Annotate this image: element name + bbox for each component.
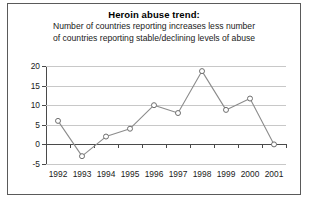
- x-axis-tick-label: 1999: [213, 170, 239, 179]
- x-axis-tick-label: 1995: [117, 170, 143, 179]
- x-axis-tick-label: 1994: [93, 170, 119, 179]
- data-point-marker: [104, 134, 109, 139]
- y-axis-tick-label-wrap: 10: [14, 101, 40, 109]
- x-axis-tick-label: 2000: [237, 170, 263, 179]
- y-axis-tick-label: 20: [18, 62, 40, 70]
- plot-area: [46, 66, 286, 164]
- y-axis-tick-label: 0: [18, 140, 40, 148]
- y-axis-tick-label: 15: [18, 82, 40, 90]
- gridline: [46, 164, 286, 165]
- data-point-marker: [56, 118, 61, 123]
- x-axis-tick-label: 1996: [141, 170, 167, 179]
- series-polyline: [58, 71, 274, 156]
- y-axis-tick-label-wrap: 15: [14, 82, 40, 90]
- y-axis-tick-label-wrap: 20: [14, 62, 40, 70]
- chart-subtitle-line-2: of countries reporting stable/declining …: [8, 33, 300, 45]
- data-point-marker: [272, 142, 277, 147]
- x-axis-tick-label: 1997: [165, 170, 191, 179]
- series-line-heroin-trend: [46, 66, 286, 164]
- chart-subtitle-line-1: Number of countries reporting increases …: [8, 21, 300, 33]
- y-axis-tick-label-wrap: 0: [14, 140, 40, 148]
- x-tick-mark: [286, 144, 287, 148]
- data-point-marker: [80, 154, 85, 159]
- y-axis-tick-label: 5: [18, 121, 40, 129]
- y-axis-tick-label-wrap: 5: [14, 121, 40, 129]
- data-point-marker: [200, 69, 205, 74]
- data-point-marker: [176, 111, 181, 116]
- chart-figure: Heroin abuse trend: Number of countries …: [7, 3, 301, 195]
- x-axis-tick-label: 1992: [45, 170, 71, 179]
- y-tick-mark: [42, 164, 46, 165]
- data-point-marker: [224, 107, 229, 112]
- x-axis-tick-label: 2001: [261, 170, 287, 179]
- y-axis-tick-label-wrap: -5: [14, 160, 40, 168]
- y-axis-tick-label: 10: [18, 101, 40, 109]
- data-point-marker: [128, 126, 133, 131]
- chart-title: Heroin abuse trend:: [8, 9, 300, 21]
- y-axis-tick-label: -5: [18, 160, 40, 168]
- data-point-marker: [248, 96, 253, 101]
- title-block: Heroin abuse trend: Number of countries …: [8, 9, 300, 44]
- x-axis-tick-label: 1993: [69, 170, 95, 179]
- data-point-marker: [152, 103, 157, 108]
- x-axis-tick-label: 1998: [189, 170, 215, 179]
